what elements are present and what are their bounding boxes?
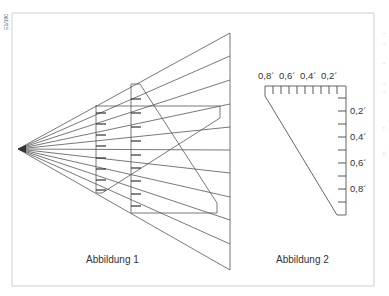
top-scale-label: 0,4´ <box>300 70 316 81</box>
edge-mark: · <box>383 60 385 66</box>
right-scale-label: 0,4´ <box>350 131 366 142</box>
projection-ray <box>18 104 230 149</box>
top-scale-label: 0,2´ <box>321 70 337 81</box>
top-scale-ticks <box>273 86 337 94</box>
caption-abbildung-2: Abbildung 2 <box>276 254 329 265</box>
shape-quad-2 <box>131 84 217 213</box>
right-scale-label: 0,8´ <box>350 183 366 194</box>
edge-mark: : <box>383 125 385 131</box>
edge-mark: · <box>383 40 385 46</box>
projection-ray <box>18 149 230 173</box>
figure-side-label: E1/190 <box>3 14 9 30</box>
edge-mark: · <box>383 30 385 36</box>
projection-ray <box>18 149 230 197</box>
top-scale-label: 0,8´ <box>258 70 274 81</box>
abbildung-2-drawing <box>265 86 346 215</box>
projection-ray <box>18 149 230 244</box>
apex-point <box>18 145 26 153</box>
caption-abbildung-1: Abbildung 1 <box>86 254 139 265</box>
edge-mark: · <box>383 80 385 86</box>
right-scale-label: 0,6´ <box>350 157 366 168</box>
top-scale-label: 0,6´ <box>279 70 295 81</box>
projection-rays <box>18 33 230 270</box>
triangle-scale <box>265 86 346 215</box>
projection-ray <box>18 80 230 149</box>
edge-mark: : <box>383 150 385 156</box>
abbildung-1-drawing <box>18 33 230 270</box>
projection-ray <box>18 127 230 149</box>
right-scale-ticks <box>338 98 346 202</box>
projection-ray <box>18 149 230 150</box>
diagram-canvas <box>0 0 389 296</box>
right-scale-label: 0,2´ <box>350 105 366 116</box>
projection-ray <box>18 56 230 149</box>
edge-mark: · <box>383 88 385 94</box>
near-plane-ticks <box>96 113 106 190</box>
